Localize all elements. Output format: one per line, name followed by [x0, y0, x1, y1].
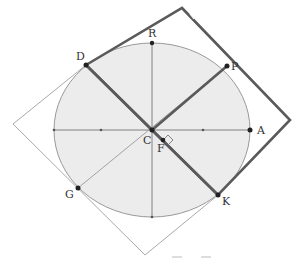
label-C: C — [143, 134, 151, 147]
point-K — [216, 193, 221, 198]
point-P — [225, 64, 230, 69]
label-G: G — [65, 188, 74, 201]
point-G — [76, 186, 81, 191]
geometry-diagram: A R C D P F G K — [0, 0, 302, 265]
point-R — [150, 41, 154, 45]
label-P: P — [231, 60, 239, 73]
axis-tick — [100, 129, 103, 132]
equal-mark — [122, 34, 127, 38]
point-A — [248, 128, 253, 133]
axis-tick — [202, 129, 205, 132]
point-D — [84, 63, 89, 68]
axis-tick — [151, 216, 154, 219]
label-R: R — [148, 27, 157, 40]
label-F: F — [157, 142, 165, 155]
label-K: K — [222, 195, 231, 208]
point-C — [150, 128, 155, 133]
label-D: D — [76, 50, 85, 63]
label-A: A — [256, 124, 266, 137]
axis-tick — [53, 129, 56, 132]
